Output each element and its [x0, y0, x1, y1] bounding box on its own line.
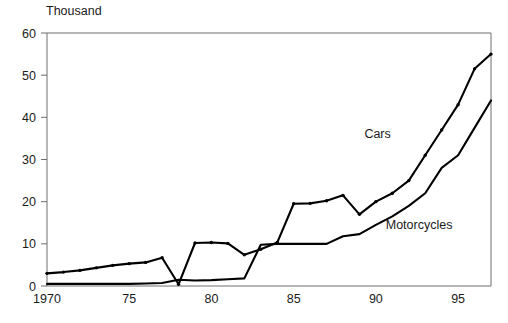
y-tick-label: 20 [22, 195, 36, 209]
data-point-marker [341, 194, 344, 197]
data-point-marker [440, 128, 443, 131]
data-point-marker [111, 264, 114, 267]
data-point-marker [374, 200, 377, 203]
data-point-marker [325, 199, 328, 202]
data-point-marker [226, 242, 229, 245]
data-point-marker [62, 270, 65, 273]
data-point-marker [78, 269, 81, 272]
data-point-marker [95, 266, 98, 269]
series-label-motorcycles: Motorcycles [386, 218, 453, 232]
data-point-marker [407, 179, 410, 182]
y-tick-label: 40 [22, 111, 36, 125]
x-tick-label: 1970 [33, 292, 61, 306]
data-point-marker [160, 256, 163, 259]
y-tick-label: 60 [22, 27, 36, 41]
data-point-marker [456, 103, 459, 106]
y-tick-label: 50 [22, 69, 36, 83]
data-point-marker [424, 154, 427, 157]
y-axis-title: Thousand [46, 4, 102, 18]
x-tick-label: 80 [204, 292, 218, 306]
x-tick-label: 90 [369, 292, 383, 306]
line-chart: 0102030405060 19707580859095 CarsMotorcy… [0, 0, 508, 323]
x-tick-label: 85 [287, 292, 301, 306]
data-point-marker [489, 52, 492, 55]
series-label-cars: Cars [364, 127, 390, 141]
y-tick-label: 30 [22, 153, 36, 167]
data-point-marker [473, 67, 476, 70]
chart-background [0, 0, 508, 323]
data-point-marker [308, 202, 311, 205]
data-point-marker [243, 253, 246, 256]
y-tick-label: 10 [22, 237, 36, 251]
chart-container: 0102030405060 19707580859095 CarsMotorcy… [0, 0, 508, 323]
x-tick-label: 95 [451, 292, 465, 306]
data-point-marker [177, 283, 180, 286]
data-point-marker [358, 213, 361, 216]
data-point-marker [292, 202, 295, 205]
data-point-marker [128, 262, 131, 265]
data-point-marker [210, 241, 213, 244]
data-point-marker [391, 192, 394, 195]
data-point-marker [45, 272, 48, 275]
x-tick-label: 75 [122, 292, 136, 306]
data-point-marker [193, 241, 196, 244]
data-point-marker [144, 261, 147, 264]
